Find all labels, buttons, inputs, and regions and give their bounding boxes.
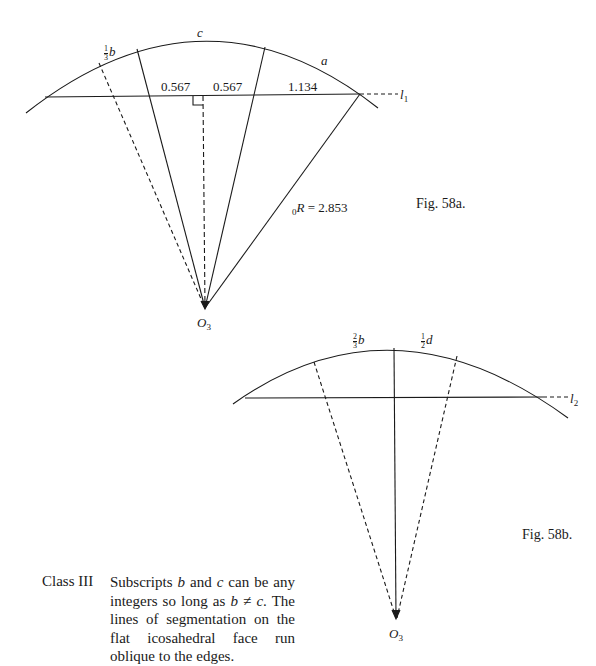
fig-a-line-label-l1: l1 bbox=[400, 88, 408, 104]
fig-b-radial-center bbox=[394, 348, 396, 618]
fig-b-center-arrow bbox=[392, 610, 400, 619]
fig-a-segment-2: 0.567 bbox=[213, 80, 242, 93]
class-description: Subscripts b and c can be any integers s… bbox=[110, 573, 295, 666]
fig-a-label-one-third-b: 13b bbox=[104, 45, 116, 62]
fig-b-line-label-l2: l2 bbox=[570, 392, 578, 408]
fig-b-radial-dashed-left bbox=[314, 362, 396, 618]
class-label: Class III bbox=[42, 573, 93, 590]
fig-b-center-label: O3 bbox=[389, 627, 403, 643]
fig-a-arc bbox=[26, 41, 378, 113]
fig-a-label-a: a bbox=[321, 54, 328, 67]
fig-b-label-one-half-d: 12d bbox=[421, 333, 433, 350]
fig-a-caption: Fig. 58a. bbox=[416, 196, 465, 212]
fig-b-label-two-thirds-b: 23b bbox=[353, 333, 365, 350]
fig-a-segment-3: 1.134 bbox=[288, 80, 317, 93]
fig-b-arc bbox=[233, 350, 568, 418]
fig-a-radius-label: 0R = 2.853 bbox=[292, 201, 348, 217]
fig-a-center-label: O3 bbox=[197, 316, 211, 332]
fig-b-caption: Fig. 58b. bbox=[522, 527, 572, 543]
fig-a-radial-dashed-left bbox=[99, 63, 205, 308]
fig-b-radial-dashed-right bbox=[397, 356, 457, 618]
fig-a-segment-1: 0.567 bbox=[161, 80, 190, 93]
fig-a-radial-perpendicular bbox=[203, 96, 205, 308]
fig-a-label-c: c bbox=[197, 26, 203, 39]
right-angle-marker bbox=[193, 96, 203, 105]
